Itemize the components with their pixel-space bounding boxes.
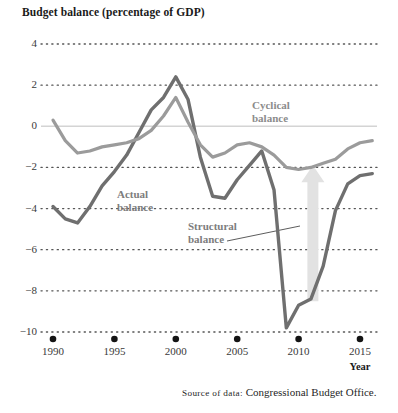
series-label-structural-balance: Structural balance [188, 220, 237, 245]
y-axis-tick-label: −4 [11, 202, 37, 214]
structural-balance-arrow [301, 165, 324, 301]
x-axis-tick-label: 1990 [30, 345, 76, 357]
structural-label-line2: balance [188, 233, 224, 245]
source-text: Congressional Budget Office. [246, 386, 377, 398]
x-axis-tick-dots [50, 336, 364, 343]
y-axis-tick-label: −6 [11, 243, 37, 255]
series-label-cyclical-balance: Cyclical balance [252, 99, 290, 124]
x-axis-tick-label: 2015 [337, 345, 383, 357]
x-axis-title: Year [337, 361, 383, 372]
structural-label-line1: Structural [188, 220, 237, 232]
x-axis-tick-label: 2000 [153, 345, 199, 357]
y-axis-tick-label: −2 [11, 160, 37, 172]
cyclical-label-line1: Cyclical [252, 99, 290, 111]
chart-figure: Budget balance (percentage of GDP) 420−2… [0, 0, 398, 413]
source-prefix: Source of data: [182, 388, 243, 398]
y-axis-tick-label: 2 [11, 78, 37, 90]
y-axis-tick-label: −8 [11, 284, 37, 296]
x-axis-tick-label: 2005 [214, 345, 260, 357]
cyclical-label-line2: balance [252, 112, 288, 124]
series-label-actual-balance: Actual balance [117, 188, 153, 213]
x-axis-tick-label: 2010 [276, 345, 322, 357]
structural-balance-leader-line [227, 226, 300, 241]
actual-label-line2: balance [117, 201, 153, 213]
x-axis-tick-label: 1995 [91, 345, 137, 357]
y-axis-tick-label: −10 [11, 325, 37, 337]
actual-label-line1: Actual [117, 188, 148, 200]
y-axis-tick-label: 4 [11, 37, 37, 49]
y-axis-tick-label: 0 [11, 119, 37, 131]
source-note: Source of data: Congressional Budget Off… [182, 386, 376, 398]
